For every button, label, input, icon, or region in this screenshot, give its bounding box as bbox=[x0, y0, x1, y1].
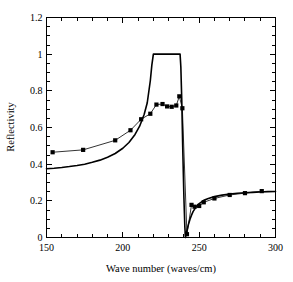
data-point-marker bbox=[165, 104, 169, 108]
data-point-marker bbox=[212, 196, 216, 200]
data-point-marker bbox=[148, 112, 152, 116]
data-point-marker bbox=[160, 102, 164, 106]
y-tick-label: 0.6 bbox=[30, 122, 43, 133]
data-point-marker bbox=[260, 189, 264, 193]
y-tick-label: 0 bbox=[38, 232, 43, 243]
y-tick-label: 1.2 bbox=[30, 12, 43, 23]
data-point-marker bbox=[202, 200, 206, 204]
y-tick-label: 1 bbox=[38, 49, 43, 60]
data-point-marker bbox=[128, 128, 132, 132]
x-tick-label: 150 bbox=[39, 242, 54, 253]
y-tick-label: 0.4 bbox=[30, 159, 43, 170]
x-tick-label: 250 bbox=[192, 242, 207, 253]
data-point-marker bbox=[174, 103, 178, 107]
y-tick-label: 0.8 bbox=[30, 85, 43, 96]
chart-canvas: 150200250300 00.20.40.60.811.2 Wave numb… bbox=[0, 0, 293, 282]
x-axis-title: Wave number (waves/cm) bbox=[106, 263, 216, 275]
data-point-marker bbox=[139, 117, 143, 121]
y-axis-title: Reflectivity bbox=[5, 101, 16, 151]
x-tick-label: 300 bbox=[268, 242, 283, 253]
data-point-marker bbox=[177, 94, 181, 98]
data-point-marker bbox=[192, 205, 196, 209]
data-point-marker bbox=[51, 150, 55, 154]
data-point-marker bbox=[154, 102, 158, 106]
data-point-marker bbox=[197, 204, 201, 208]
y-tick-label: 0.2 bbox=[30, 195, 43, 206]
data-point-marker bbox=[185, 232, 189, 236]
data-point-marker bbox=[81, 148, 85, 152]
data-point-marker bbox=[180, 106, 184, 110]
chart-background bbox=[0, 0, 293, 282]
reflectivity-chart-figure: 150200250300 00.20.40.60.811.2 Wave numb… bbox=[0, 0, 293, 282]
data-point-marker bbox=[228, 193, 232, 197]
data-point-marker bbox=[113, 138, 117, 142]
data-point-marker bbox=[170, 105, 174, 109]
data-point-marker bbox=[243, 191, 247, 195]
x-tick-label: 200 bbox=[115, 242, 130, 253]
